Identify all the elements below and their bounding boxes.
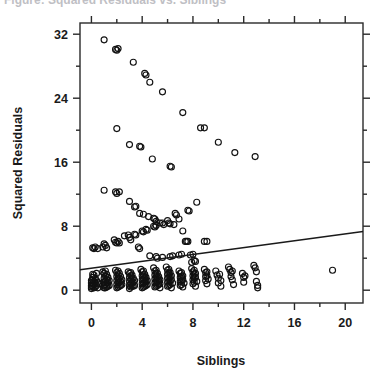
y-axis-ticks	[73, 34, 370, 290]
x-tick-label: 20	[338, 316, 352, 330]
y-axis-tick-labels: 08162432	[54, 28, 68, 298]
y-tick-label: 24	[54, 92, 68, 106]
data-point	[126, 142, 132, 148]
y-axis-title: Squared Residuals	[11, 107, 25, 220]
x-tick-label: 4	[139, 316, 146, 330]
x-tick-label: 16	[288, 316, 302, 330]
data-point	[194, 199, 200, 205]
data-point	[180, 110, 186, 116]
data-point	[201, 125, 207, 131]
data-point	[114, 126, 120, 132]
y-tick-label: 0	[61, 284, 68, 298]
data-point	[252, 154, 258, 160]
x-tick-label: 0	[88, 316, 95, 330]
y-tick-label: 16	[54, 156, 68, 170]
data-point	[143, 72, 149, 78]
scatter-points	[88, 37, 335, 292]
regression-line	[80, 231, 363, 269]
data-point	[215, 139, 221, 145]
y-tick-label: 32	[54, 28, 68, 42]
plot-frame	[80, 23, 363, 303]
data-point	[253, 278, 259, 284]
data-point	[101, 37, 107, 43]
x-axis-title: Siblings	[197, 354, 246, 368]
data-point	[147, 253, 153, 259]
data-point	[137, 246, 143, 252]
figure-container: 048121620 08162432 Siblings Squared Resi…	[0, 0, 382, 377]
data-point	[149, 156, 155, 162]
x-axis-tick-labels: 048121620	[88, 316, 352, 330]
x-axis-ticks	[91, 16, 345, 310]
data-point	[180, 228, 186, 234]
data-point	[232, 150, 238, 156]
data-point	[159, 89, 165, 95]
y-tick-label: 8	[61, 220, 68, 234]
data-point	[101, 187, 107, 193]
data-point	[147, 79, 153, 85]
x-tick-label: 8	[189, 316, 196, 330]
data-point	[213, 268, 219, 274]
data-point	[130, 59, 136, 65]
data-point	[253, 269, 259, 275]
scatter-plot-svg: 048121620 08162432 Siblings Squared Resi…	[0, 0, 382, 377]
data-point	[126, 198, 132, 204]
data-point	[330, 267, 336, 273]
x-tick-label: 12	[237, 316, 251, 330]
